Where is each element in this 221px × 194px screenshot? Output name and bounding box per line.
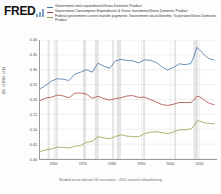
- chart-svg: [40, 40, 217, 159]
- fred-chart-screenshot: FRED Government total expenditures/Gross…: [0, 0, 221, 194]
- legend-item[interactable]: Government total expenditures/Gross Dome…: [47, 4, 218, 8]
- y-axis-label: (Bil. of $/Bil. of $): [2, 34, 6, 94]
- y-axis-tick-label: 0.05: [30, 143, 37, 147]
- plot-area-wrapper: (Bil. of $/Bil. of $) 0.400.350.300.250.…: [0, 36, 221, 164]
- fred-logo-text: FRED: [4, 5, 35, 17]
- legend-item[interactable]: Federal government current transfer paym…: [47, 14, 218, 22]
- y-axis-tick-label: 0.40: [30, 38, 37, 42]
- y-axis-tick-label: 0.30: [30, 68, 37, 72]
- legend-color-swatch: [47, 7, 53, 8]
- legend-item-label: Government Consumption Expenditures & Gr…: [55, 9, 188, 13]
- x-axis-tick-label: 1990: [137, 162, 145, 166]
- y-axis-tick-label: 0.35: [30, 53, 37, 57]
- y-axis-tick-label: 0.20: [30, 98, 37, 102]
- legend-color-swatch: [47, 12, 53, 13]
- legend-item[interactable]: Government Consumption Expenditures & Gr…: [47, 9, 218, 13]
- series-line: [40, 47, 214, 89]
- y-axis-tick-label: 0.10: [30, 128, 37, 132]
- chart-legend: Government total expenditures/Gross Dome…: [47, 4, 218, 23]
- x-axis-tick-label: 1980: [108, 162, 116, 166]
- chart-plot: [39, 40, 217, 160]
- chart-header: FRED Government total expenditures/Gross…: [0, 0, 221, 36]
- chart-footer-note: Shaded areas indicate US recessions - 20…: [0, 178, 221, 182]
- legend-color-swatch: [47, 17, 53, 18]
- legend-item-label: Federal government current transfer paym…: [55, 14, 218, 22]
- x-axis-ticks: 196019701980199020002010: [39, 162, 217, 172]
- y-axis-tick-label: 0.00: [30, 158, 37, 162]
- grid-lines: [40, 40, 217, 159]
- x-axis-tick-label: 2010: [195, 162, 203, 166]
- series-line: [40, 121, 214, 152]
- bar-chart-glyph-icon: [36, 9, 45, 17]
- y-axis-ticks: 0.400.350.300.250.200.150.100.050.00: [16, 36, 37, 164]
- series-line: [40, 93, 214, 105]
- y-axis-tick-label: 0.25: [30, 83, 37, 87]
- y-axis-tick-label: 0.15: [30, 113, 37, 117]
- fred-logo[interactable]: FRED: [4, 5, 45, 17]
- legend-item-label: Government total expenditures/Gross Dome…: [55, 4, 142, 8]
- x-axis-tick-label: 1960: [49, 162, 57, 166]
- x-axis-tick-label: 2000: [166, 162, 174, 166]
- x-axis-tick-label: 1970: [79, 162, 87, 166]
